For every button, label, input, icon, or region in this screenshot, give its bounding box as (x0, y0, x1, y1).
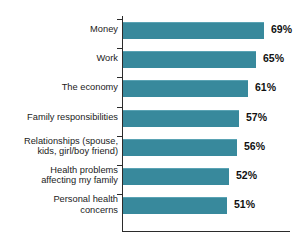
bar (123, 197, 227, 214)
bar-category-label: Work (0, 53, 118, 63)
bar-category-label: Money (0, 24, 118, 34)
bar (123, 22, 264, 39)
bar-row: Money69% (0, 16, 304, 45)
bar-category-label: The economy (0, 82, 118, 92)
bar-row: Family responsibilities57% (0, 104, 304, 133)
bar-row: Personal health concerns51% (0, 191, 304, 220)
bar-value-label: 51% (234, 198, 255, 210)
bar-value-label: 65% (263, 52, 284, 64)
bar-row: Relationships (spouse, kids, girl/boy fr… (0, 133, 304, 162)
plot-area: Money69%Work65%The economy61%Family resp… (0, 0, 304, 248)
bar (123, 110, 239, 127)
bar-category-label: Family responsibilities (0, 112, 118, 122)
bar-row: Work65% (0, 45, 304, 74)
bar-category-label: Personal health concerns (0, 194, 118, 215)
bar-value-label: 52% (236, 169, 257, 181)
bar-category-label: Relationships (spouse, kids, girl/boy fr… (0, 136, 118, 157)
bar-value-label: 61% (255, 81, 276, 93)
bar-value-label: 56% (244, 140, 265, 152)
bar (123, 139, 237, 156)
bar-chart: Money69%Work65%The economy61%Family resp… (0, 0, 304, 248)
bar-category-label: Health problems affecting my family (0, 165, 118, 186)
bar-row: The economy61% (0, 74, 304, 103)
bar-value-label: 69% (271, 23, 292, 35)
bar-value-label: 57% (246, 111, 267, 123)
value-axis-baseline (122, 231, 290, 232)
bar (123, 51, 256, 68)
bar (123, 168, 229, 185)
bar (123, 80, 248, 97)
bar-row: Health problems affecting my family52% (0, 162, 304, 191)
